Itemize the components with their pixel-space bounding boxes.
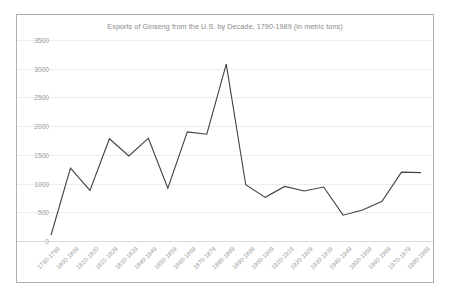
plot-area: 0500100015002000250030003500 1790-179918…	[17, 15, 433, 282]
x-axis: 1790-17991800-18091810-18201821-18291830…	[17, 15, 433, 282]
x-tick-label: 1980-1989	[392, 245, 431, 284]
chart-container: Exports of Ginseng from the U.S. by Deca…	[16, 14, 434, 283]
